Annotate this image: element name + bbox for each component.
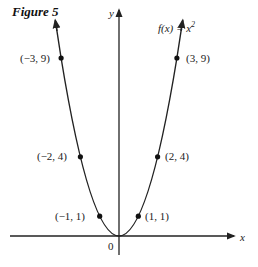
function-label: f(x) = x2 [158,20,195,35]
label-2-4: (2, 4) [165,150,189,163]
label-3-9: (3, 9) [186,52,210,65]
point-1-1 [136,214,141,219]
parabola-figure: Figure 5 x y 0 f(x) = x2 (−3, 9) (−2, 4)… [0,0,258,267]
label-neg1-1: (−1, 1) [55,210,85,223]
figure-title: Figure 5 [11,4,59,19]
point-3-9 [174,55,179,60]
label-1-1: (1, 1) [145,210,169,223]
label-neg3-9: (−3, 9) [20,52,50,65]
origin-label: 0 [108,240,114,252]
x-axis-label: x [239,231,245,243]
point-2-4 [155,154,160,159]
point-neg1-1 [97,214,102,219]
label-neg2-4: (−2, 4) [37,150,67,163]
y-axis-label: y [108,7,114,19]
point-neg3-9 [59,55,64,60]
point-neg2-4 [78,154,83,159]
curve-arrow-left [55,20,57,31]
